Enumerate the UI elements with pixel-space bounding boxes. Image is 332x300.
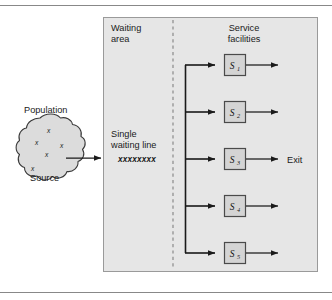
service-facilities-heading-group: Service facilities: [228, 23, 261, 44]
server-box[interactable]: [225, 196, 246, 217]
waiting-area-heading-line2: area: [111, 34, 130, 44]
service-facilities-heading-line2: facilities: [228, 34, 261, 44]
source-label: Source: [30, 173, 59, 183]
server-subscript: 2: [237, 112, 240, 119]
waiting-line-label-line1: Single: [111, 129, 137, 139]
server-symbol: S: [230, 249, 235, 259]
population-member: x: [30, 165, 35, 172]
server-subscript: 1: [237, 65, 240, 72]
population-member: x: [34, 139, 39, 146]
population-member: x: [59, 142, 64, 149]
server-box[interactable]: [225, 102, 246, 123]
server-box[interactable]: [225, 55, 246, 76]
server-box[interactable]: [225, 243, 246, 264]
population-member: x: [46, 127, 51, 134]
server-symbol: S: [230, 61, 235, 71]
exit-label: Exit: [287, 155, 303, 165]
waiting-line-label-line2: waiting line: [110, 140, 156, 150]
figure-root: Population x x x x x Source Waiting area…: [0, 0, 332, 300]
server-symbol: S: [230, 155, 235, 165]
server-subscript: 4: [237, 206, 240, 213]
population-member: x: [44, 151, 49, 158]
population-cloud-shape: [16, 114, 85, 180]
server-symbol: S: [230, 202, 235, 212]
waiting-area-heading-line1: Waiting: [111, 23, 141, 33]
queueing-system-diagram: Population x x x x x Source Waiting area…: [0, 0, 332, 300]
server-box[interactable]: [225, 149, 246, 170]
service-facilities-heading-line1: Service: [229, 23, 260, 33]
queue-members: xxxxxxxx: [117, 155, 156, 164]
server-symbol: S: [230, 108, 235, 118]
population-cloud-group: Population x x x x x Source: [16, 105, 85, 183]
population-title: Population: [24, 105, 67, 115]
server-subscript: 5: [237, 253, 240, 260]
server-subscript: 3: [236, 159, 240, 166]
